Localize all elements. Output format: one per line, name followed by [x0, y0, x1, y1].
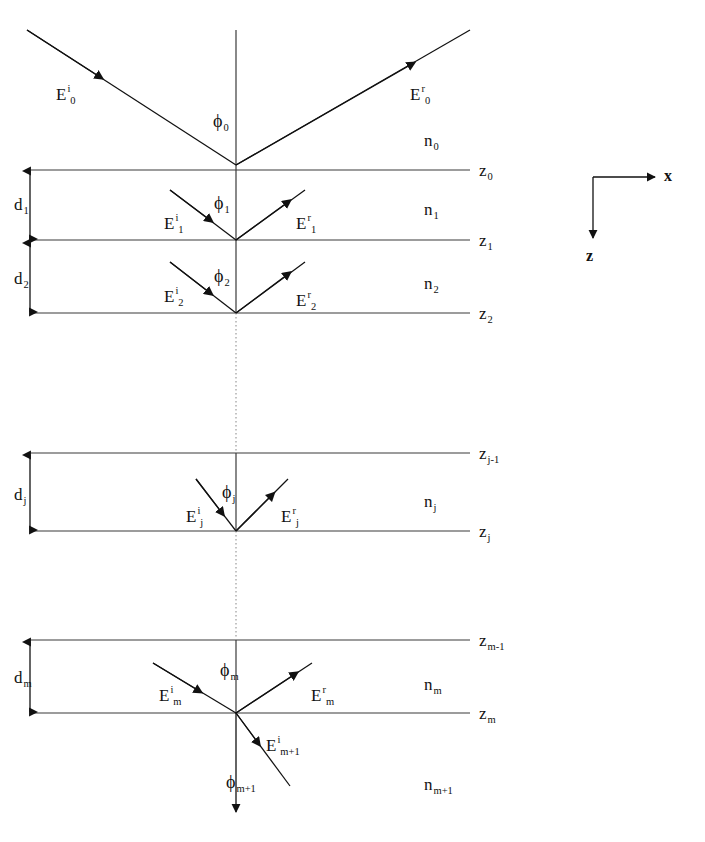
field-label-E2i: Ei2	[164, 288, 183, 305]
medium-label-nm+1: nm+1	[424, 776, 452, 793]
interface-label-z1: z1	[479, 232, 492, 249]
rays-layer-2	[170, 262, 305, 313]
medium-label-nm: nm	[424, 676, 441, 693]
interface-label-zm-1: zm-1	[479, 632, 503, 649]
rays-medium-0	[27, 30, 470, 165]
angle-label-phij: ϕj	[222, 483, 234, 501]
thickness-label-d1: d1	[14, 196, 28, 213]
medium-label-n1: n1	[424, 201, 438, 218]
ray-reflected-Emr-arrow	[236, 674, 295, 713]
figure-root: z0 z1 z2 zj-1 zj zm-1 zm n0 n1 n2 nj nm …	[0, 0, 705, 842]
medium-label-n2: n2	[424, 275, 438, 292]
interface-label-z2: z2	[479, 305, 492, 322]
medium-label-nj: nj	[424, 493, 435, 510]
angle-label-phi1: ϕ1	[214, 194, 229, 212]
angle-label-phim: ϕm	[220, 661, 238, 679]
ray-incident-E0i-arrow	[27, 30, 100, 77]
interface-label-zm: zm	[479, 705, 495, 722]
ray-reflected-E0r-arrow	[236, 64, 412, 165]
rays-layer-1	[170, 190, 305, 240]
field-label-Emr: Erm	[311, 687, 333, 704]
field-label-Ejr: Erj	[281, 508, 298, 525]
field-label-E0r: Er0	[410, 86, 429, 103]
ray-reflected-E1r-arrow	[236, 202, 288, 240]
field-label-E1i: Ei1	[164, 215, 183, 232]
field-label-Emi: Eim	[159, 687, 180, 704]
interface-label-zj-1: zj-1	[479, 445, 498, 462]
field-label-E0i: Ei0	[56, 86, 75, 103]
axis-label-x: x	[664, 168, 672, 184]
thickness-label-d2: d2	[14, 270, 28, 287]
field-label-Em+1i: Eim+1	[266, 737, 299, 754]
field-label-E1r: Er1	[296, 215, 315, 232]
thickness-label-dm: dm	[14, 669, 31, 686]
coordinate-axes	[593, 177, 655, 238]
angle-label-phi0: ϕ0	[213, 112, 228, 130]
ray-reflected-Ejr-arrow	[236, 495, 272, 531]
field-label-E2r: Er2	[296, 292, 315, 309]
axis-label-z: z	[586, 248, 593, 264]
thickness-label-dj: dj	[14, 486, 25, 503]
ray-reflected-E2r-arrow	[236, 274, 288, 313]
rays-layer-j	[196, 479, 288, 531]
ray-transmitted-Emp1i-arrow	[236, 713, 258, 743]
angle-label-phim+1: ϕm+1	[226, 773, 255, 791]
medium-label-n0: n0	[424, 132, 438, 149]
interface-label-zj: zj	[479, 523, 489, 540]
diagram-canvas	[0, 0, 705, 842]
interface-label-z0: z0	[479, 162, 492, 179]
field-label-Eji: Eij	[186, 508, 202, 525]
interface-lines	[30, 170, 470, 713]
angle-label-phi2: ϕ2	[214, 267, 229, 285]
